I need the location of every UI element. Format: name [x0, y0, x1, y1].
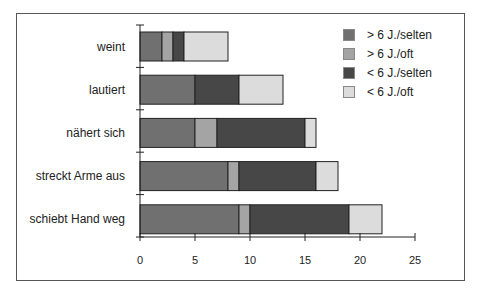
legend-label: < 6 J./selten — [367, 66, 432, 80]
bar-row — [140, 75, 283, 104]
bar-row — [140, 118, 316, 147]
category-label: weint — [96, 40, 126, 54]
legend-label: > 6 J./oft — [367, 47, 413, 61]
category-label: streckt Arme aus — [36, 169, 125, 183]
legend-swatch — [343, 29, 355, 41]
bar-segment — [140, 32, 162, 61]
x-tick-label: 25 — [409, 254, 421, 266]
legend-swatch — [343, 48, 355, 60]
bar-segment — [140, 205, 239, 234]
bar-segment — [140, 75, 195, 104]
bar-segment — [239, 205, 250, 234]
bar-segment — [140, 118, 195, 147]
x-tick-label: 10 — [244, 254, 256, 266]
bar-row — [140, 162, 338, 191]
legend-item: > 6 J./oft — [343, 44, 432, 63]
bar-row — [140, 32, 228, 61]
legend-label: > 6 J./selten — [367, 28, 432, 42]
bar-segment — [239, 162, 316, 191]
bar-segment — [184, 32, 228, 61]
bar-segment — [195, 118, 217, 147]
legend-label: < 6 J./oft — [367, 85, 413, 99]
bar-segment — [195, 75, 239, 104]
chart-legend: > 6 J./selten> 6 J./oft< 6 J./selten< 6 … — [343, 25, 432, 101]
bar-segment — [349, 205, 382, 234]
category-label: lautiert — [89, 83, 126, 97]
category-label: schiebt Hand weg — [30, 212, 125, 226]
legend-swatch — [343, 67, 355, 79]
bar-row — [140, 205, 382, 234]
bar-segment — [162, 32, 173, 61]
legend-item: < 6 J./oft — [343, 82, 432, 101]
x-tick-label: 15 — [299, 254, 311, 266]
bar-segment — [228, 162, 239, 191]
x-tick-label: 20 — [354, 254, 366, 266]
legend-item: < 6 J./selten — [343, 63, 432, 82]
bar-segment — [239, 75, 283, 104]
x-tick-label: 0 — [137, 254, 143, 266]
bar-segment — [217, 118, 305, 147]
bar-segment — [173, 32, 184, 61]
category-label: nähert sich — [66, 126, 125, 140]
bar-segment — [316, 162, 338, 191]
bar-segment — [140, 162, 228, 191]
legend-swatch — [343, 86, 355, 98]
legend-item: > 6 J./selten — [343, 25, 432, 44]
bar-segment — [250, 205, 349, 234]
x-tick-label: 5 — [192, 254, 198, 266]
bar-segment — [305, 118, 316, 147]
